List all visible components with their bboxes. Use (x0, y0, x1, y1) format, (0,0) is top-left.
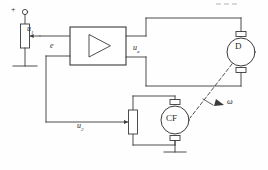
wire-feedback-into-amplifier (46, 56, 128, 122)
omega-arrowhead (214, 99, 224, 106)
feedback-pot-body (129, 110, 138, 134)
motor-brush-top (236, 32, 246, 37)
circuit-schematic (0, 0, 268, 170)
wire-amplifier-to-motor (126, 18, 241, 86)
error-signal-label: e (50, 42, 54, 50)
dashed-mechanical-shaft (190, 64, 232, 118)
feedback-voltage-label: u2 (77, 122, 83, 133)
tacho-brush-top (170, 100, 180, 105)
feedback-voltage-subscript: 2 (81, 127, 83, 132)
scan-artifact (216, 2, 238, 6)
motor-label: D (235, 42, 242, 51)
input-terminal (22, 9, 27, 24)
feedback-pot-wiper-arrow (124, 120, 128, 124)
amplifier-output-subscript: a (137, 49, 139, 54)
amplifier-block (70, 27, 126, 65)
tachogenerator-label: CF (166, 114, 177, 123)
input-voltage-label: u1 (27, 25, 33, 36)
amplifier-output-label: ua (133, 44, 139, 55)
angular-speed-label: ω (227, 98, 233, 106)
input-terminal-plus-label: + (11, 6, 16, 14)
dc-motor (227, 32, 255, 73)
input-voltage-subscript: 1 (31, 30, 33, 35)
tacho-brush-bottom (170, 136, 180, 141)
motor-brush-bottom (236, 68, 246, 73)
diagram-canvas: + u1 e ua u2 D CF ω (0, 0, 268, 170)
